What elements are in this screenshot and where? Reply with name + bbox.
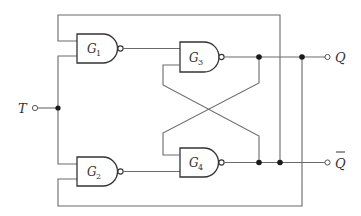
t-junction-dot (55, 105, 60, 110)
gate-g1-sub: 1 (96, 49, 101, 58)
t-input-terminal[interactable] (32, 105, 37, 110)
q-output-label: Q (335, 50, 346, 65)
gate-g1: G 1 (77, 34, 180, 63)
q-junction-dot-1 (256, 54, 262, 60)
gate-g3-sub: 3 (198, 58, 203, 67)
qbar-junction-dot-1 (256, 160, 262, 166)
q-output: Q (325, 50, 346, 65)
qbar-output-label: Q (335, 156, 346, 171)
qbar-output: Q (325, 152, 346, 171)
t-input-label: T (18, 101, 28, 116)
q-output-terminal[interactable] (325, 54, 330, 59)
gate-g2: G 2 (77, 157, 180, 186)
flip-flop-diagram: T G 1 G 2 G 3 G 4 (0, 0, 361, 216)
gate-g4: G 4 (180, 148, 325, 177)
gate-g4-sub: 4 (198, 163, 203, 172)
qbar-junction-dot-2 (277, 160, 283, 166)
gate-g2-sub: 2 (96, 172, 101, 181)
q-junction-dot-2 (299, 54, 305, 60)
qbar-output-terminal[interactable] (325, 160, 330, 165)
t-input: T (18, 56, 77, 164)
cross-coupling-wires (163, 57, 259, 162)
